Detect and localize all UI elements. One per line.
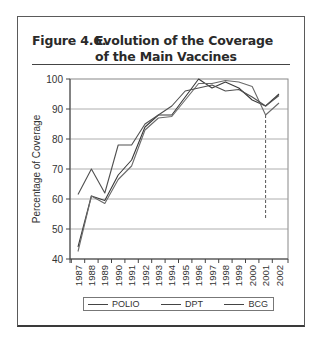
x-tick-label: 1999: [233, 265, 244, 286]
y-tick-label: 60: [52, 194, 64, 205]
x-tick-label: 1997: [207, 265, 218, 286]
x-tick-label: 2001: [260, 265, 271, 286]
legend-label-dpt: DPT: [185, 299, 203, 309]
y-tick-label: 40: [52, 254, 64, 265]
legend-label-polio: POLIO: [112, 299, 140, 309]
y-tick-label: 80: [52, 134, 64, 145]
x-tick-label: 1998: [220, 265, 231, 286]
legend-swatch-polio: [88, 304, 108, 305]
line-chart: 4050607080901001987198819891990199119921…: [0, 0, 314, 338]
x-tick-label: 1991: [126, 265, 137, 286]
x-tick-label: 1990: [113, 265, 124, 286]
y-axis-label: Percentage of Coverage: [31, 114, 42, 223]
series-line-bcg: [78, 85, 279, 195]
x-tick-label: 1989: [99, 265, 110, 286]
legend-item-polio: POLIO: [88, 299, 140, 309]
x-tick-label: 2002: [274, 265, 285, 286]
y-tick-label: 100: [46, 74, 63, 85]
chart-legend: POLIO DPT BCG: [83, 297, 274, 311]
legend-item-dpt: DPT: [161, 299, 203, 309]
x-tick-label: 1994: [166, 265, 177, 286]
x-tick-label: 1993: [153, 265, 164, 286]
y-tick-label: 70: [52, 164, 64, 175]
x-tick-label: 1988: [86, 265, 97, 286]
y-tick-label: 90: [52, 104, 64, 115]
x-tick-label: 1992: [140, 265, 151, 286]
x-tick-label: 1996: [193, 265, 204, 286]
y-tick-label: 50: [52, 224, 64, 235]
x-tick-label: 1995: [180, 265, 191, 286]
x-tick-label: 1987: [73, 265, 84, 286]
legend-swatch-dpt: [161, 304, 181, 305]
x-tick-label: 2000: [247, 265, 258, 286]
series-line-polio: [78, 79, 279, 247]
legend-swatch-bcg: [224, 304, 244, 305]
legend-label-bcg: BCG: [248, 299, 268, 309]
legend-item-bcg: BCG: [224, 299, 268, 309]
